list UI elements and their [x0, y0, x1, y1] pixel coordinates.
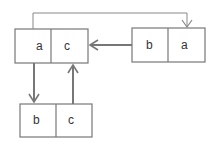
cell-label: c — [64, 39, 70, 53]
diagram-canvas: a c b a b c — [0, 0, 219, 149]
node-top-left: a c — [15, 29, 88, 63]
cell-label: a — [181, 38, 188, 52]
edge-top-elbow-arrow — [33, 13, 192, 29]
connector-line — [33, 13, 187, 29]
cell-label: a — [36, 39, 43, 53]
edge-right-to-left-arrow — [90, 40, 132, 50]
cell-label: c — [68, 113, 74, 127]
cell-label: b — [33, 113, 40, 127]
edge-up-arrow — [68, 65, 78, 104]
edge-down-arrow — [29, 63, 39, 102]
node-bottom: b c — [20, 104, 92, 137]
cell-label: b — [146, 38, 153, 52]
node-right: b a — [132, 28, 205, 62]
